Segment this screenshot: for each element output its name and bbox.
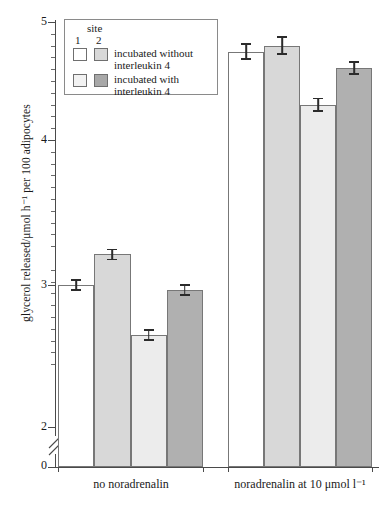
y-tick-label-3: 3 [7, 278, 47, 290]
y-minor-tick [51, 246, 55, 247]
error-bar [144, 329, 154, 341]
legend-swatch-site2-without [94, 48, 108, 61]
error-bar-cap-bottom [313, 110, 323, 112]
error-bar [107, 249, 117, 261]
y-axis-title: glycerol released/μmol h⁻¹ per 100 adipo… [19, 83, 33, 343]
y-minor-tick [51, 329, 55, 330]
bar [94, 254, 130, 467]
bar [264, 46, 300, 467]
bar [58, 285, 94, 467]
y-minor-tick [51, 46, 55, 47]
error-bar-cap-bottom [241, 58, 251, 60]
error-bar-cap-top [144, 329, 154, 331]
error-bar-stem [281, 36, 283, 55]
error-bar [313, 98, 323, 112]
legend-label-with-line1: incubated with [114, 73, 179, 86]
x-axis-line [55, 467, 379, 468]
y-tick-3 [48, 285, 55, 286]
y-tick-4 [48, 140, 55, 141]
error-bar-cap-top [349, 61, 359, 63]
y-minor-tick [51, 152, 55, 153]
y-tick-label-0: 0 [7, 459, 47, 471]
error-bar [71, 279, 81, 291]
x-tick-group2-start [228, 467, 229, 472]
x-group-label-2: noradrenalin at 10 μmol l⁻¹ [218, 477, 382, 492]
error-bar-cap-bottom [71, 289, 81, 291]
legend-label-without-line1: incubated without [114, 47, 193, 60]
legend-swatch-site2-with [94, 74, 108, 87]
y-minor-tick [51, 105, 55, 106]
y-minor-tick [51, 57, 55, 58]
x-tick-group2-end [372, 467, 373, 472]
y-minor-tick [51, 341, 55, 342]
y-minor-tick [51, 81, 55, 82]
error-bar-cap-top [71, 279, 81, 281]
y-minor-tick [51, 352, 55, 353]
error-bar-cap-bottom [107, 259, 117, 261]
y-minor-tick [51, 69, 55, 70]
y-tick-0 [48, 467, 55, 468]
y-tick-label-4: 4 [7, 133, 47, 145]
legend-label-without-line2: interleukin 4 [114, 59, 170, 72]
error-bar [241, 43, 251, 60]
bar-chart: glycerol released/μmol h⁻¹ per 100 adipo… [0, 0, 392, 514]
x-group-label-1: no noradrenalin [50, 477, 212, 492]
legend-col-1-header: 1 [75, 34, 81, 46]
x-tick-group1-start [58, 467, 59, 472]
y-tick-5 [48, 22, 55, 23]
error-bar-cap-bottom [349, 73, 359, 75]
legend-col-2-header: 2 [96, 34, 102, 46]
y-minor-tick [51, 116, 55, 117]
bar [336, 68, 372, 467]
y-minor-tick [51, 282, 55, 283]
y-minor-tick [51, 128, 55, 129]
y-minor-tick [51, 199, 55, 200]
y-minor-tick [51, 187, 55, 188]
y-minor-tick [51, 164, 55, 165]
y-minor-tick [51, 270, 55, 271]
error-bar-cap-bottom [277, 53, 287, 55]
error-bar-cap-bottom [180, 294, 190, 296]
error-bar-cap-bottom [144, 339, 154, 341]
y-tick-label-2: 2 [7, 420, 47, 432]
y-minor-tick [51, 305, 55, 306]
y-minor-tick [51, 234, 55, 235]
bar [167, 290, 203, 467]
x-tick-group1-end [203, 467, 204, 472]
error-bar-cap-top [277, 36, 287, 38]
error-bar-cap-top [313, 98, 323, 100]
legend-label-with-line2: interleukin 4 [114, 85, 170, 98]
y-minor-tick [51, 93, 55, 94]
y-tick-label-5: 5 [7, 15, 47, 27]
bar [228, 52, 264, 468]
error-bar [180, 284, 190, 296]
error-bar-cap-top [241, 43, 251, 45]
legend: site 1 2 incubated without interleukin 4… [64, 19, 218, 95]
y-minor-tick [51, 293, 55, 294]
error-bar [277, 36, 287, 55]
y-axis-line [55, 20, 56, 468]
y-minor-tick [51, 34, 55, 35]
y-minor-tick [51, 175, 55, 176]
bar [300, 105, 336, 467]
y-minor-tick [51, 223, 55, 224]
y-minor-tick [51, 364, 55, 365]
y-minor-tick [51, 211, 55, 212]
bar [131, 335, 167, 467]
y-tick-2 [48, 427, 55, 428]
error-bar-cap-top [180, 284, 190, 286]
y-minor-tick [51, 317, 55, 318]
error-bar-cap-top [107, 249, 117, 251]
legend-swatch-site1-with [73, 74, 87, 87]
legend-site-header: site [87, 22, 102, 34]
legend-swatch-site1-without [73, 48, 87, 61]
error-bar [349, 61, 359, 75]
